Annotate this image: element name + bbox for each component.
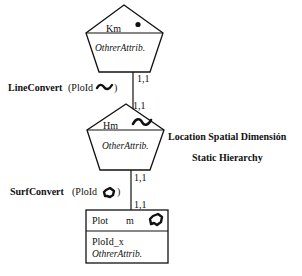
lineconvert-label: LineConvert bbox=[8, 83, 62, 93]
surfconvert-label: SurfConvert bbox=[10, 187, 64, 197]
level-km-name: Km bbox=[106, 24, 121, 34]
lineconvert-card-top: 1,1 bbox=[137, 74, 150, 84]
lineconvert-card-bottom: 1,1 bbox=[133, 101, 146, 111]
lineconvert-param-close: ) bbox=[114, 83, 117, 93]
level-hm-name: Hm bbox=[103, 121, 118, 131]
lineconvert-param: (PloId bbox=[68, 83, 93, 93]
level-km-attribute: OthrerAttrib. bbox=[95, 44, 145, 54]
annotation-dimension: Location Spatial Dimensión bbox=[168, 132, 286, 142]
lineconvert-line-icon bbox=[97, 85, 112, 89]
surfconvert-param: (PloId bbox=[72, 187, 97, 197]
level-hm-shape bbox=[87, 104, 164, 170]
level-km-shape bbox=[86, 5, 163, 72]
surfconvert-param-close: ) bbox=[117, 187, 120, 197]
annotation-hierarchy: Static Hierarchy bbox=[192, 153, 263, 163]
level-plot-subname: m bbox=[126, 216, 134, 226]
surfconvert-card-bottom: 1,1 bbox=[134, 200, 147, 210]
level-plot-attribute-other: OthrerAttrib. bbox=[92, 250, 142, 260]
point-icon bbox=[135, 22, 140, 27]
level-plot-name: Plot bbox=[92, 216, 108, 226]
level-plot-attribute-id: PloId_x bbox=[92, 237, 124, 247]
surface-icon bbox=[150, 214, 162, 225]
surfconvert-surface-icon bbox=[104, 188, 114, 197]
surfconvert-card-top: 1,1 bbox=[134, 173, 147, 183]
level-hm-attribute: OtherAttrib. bbox=[102, 142, 149, 152]
